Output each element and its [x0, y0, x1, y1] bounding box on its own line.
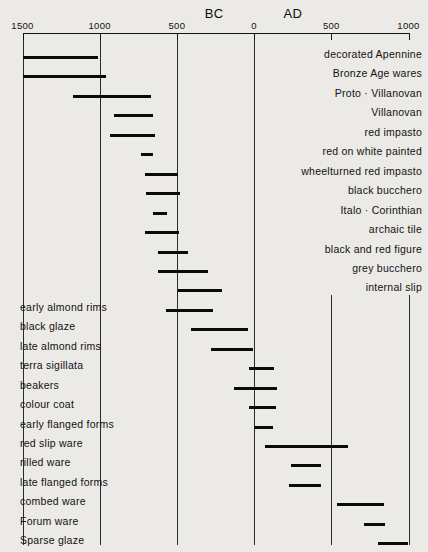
range-bar	[249, 406, 276, 409]
axis-rule	[23, 33, 409, 34]
range-bar	[265, 445, 348, 448]
range-bar	[178, 289, 222, 292]
grid-line-0	[23, 40, 24, 545]
axis-tick-mark-3	[254, 33, 255, 40]
row-label: late almond rims	[20, 340, 101, 352]
grid-line-2	[177, 40, 178, 545]
axis-tick-mark-2	[177, 33, 178, 40]
row-label: red on white painted	[322, 145, 422, 157]
range-bar	[254, 426, 273, 429]
row-label: Sparse glaze	[20, 534, 84, 546]
grid-line-4	[331, 295, 332, 545]
range-bar	[378, 542, 408, 545]
row-label: red slip ware	[20, 437, 83, 449]
row-label: black glaze	[20, 320, 75, 332]
range-bar	[145, 231, 179, 234]
range-bar	[141, 153, 153, 156]
range-bar	[211, 348, 253, 351]
axis-tick-mark-1	[100, 33, 101, 40]
row-label: decorated Apennine	[324, 48, 422, 60]
axis-tick-mark-4	[331, 33, 332, 40]
range-bar	[364, 523, 386, 526]
row-label: internal slip	[366, 281, 422, 293]
row-label: Proto · Villanovan	[335, 87, 422, 99]
range-bar	[249, 367, 274, 370]
range-bar	[153, 212, 167, 215]
row-label: red impasto	[364, 126, 422, 138]
chronology-chart: BCAD 1500100050005001000 decorated Apenn…	[0, 0, 428, 552]
axis-tick-mark-0	[23, 33, 24, 40]
axis-tick-label-2: 500	[169, 20, 186, 31]
row-label: early almond rims	[20, 301, 107, 313]
row-label: beakers	[20, 379, 59, 391]
axis-tick-mark-5	[409, 33, 410, 40]
axis-tick-label-5: 1000	[397, 20, 419, 31]
axis-tick-label-1: 1000	[89, 20, 111, 31]
range-bar	[158, 270, 208, 273]
range-bar	[114, 114, 153, 117]
row-label: grey bucchero	[352, 262, 422, 274]
grid-line-3	[254, 40, 255, 545]
range-bar	[337, 503, 384, 506]
range-bar	[73, 95, 151, 98]
row-label: early flanged forms	[20, 418, 114, 430]
range-bar	[291, 464, 321, 467]
row-label: Forum ware	[20, 515, 79, 527]
range-bar	[110, 134, 155, 137]
row-label: terra sigillata	[20, 359, 83, 371]
range-bar	[166, 309, 213, 312]
range-bar	[145, 173, 178, 176]
row-label: black bucchero	[348, 184, 422, 196]
range-bar	[23, 56, 99, 59]
row-label: colour coat	[20, 398, 74, 410]
range-bar	[289, 484, 321, 487]
row-label: combed ware	[20, 495, 86, 507]
axis-tick-label-3: 0	[251, 20, 257, 31]
row-label: archaic tile	[369, 223, 422, 235]
era-label-ad: AD	[283, 6, 302, 21]
row-label: wheelturned red impasto	[301, 165, 422, 177]
range-bar	[158, 251, 189, 254]
range-bar	[146, 192, 180, 195]
range-bar	[234, 387, 277, 390]
row-label: Italo · Corinthian	[340, 204, 422, 216]
axis-tick-label-0: 1500	[11, 20, 33, 31]
row-label: Villanovan	[371, 106, 422, 118]
row-label: black and red figure	[325, 243, 422, 255]
axis-tick-label-4: 500	[323, 20, 340, 31]
grid-line-5	[409, 295, 410, 545]
range-bar	[191, 328, 248, 331]
row-label: Bronze Age wares	[333, 67, 422, 79]
era-label-bc: BC	[205, 6, 224, 21]
range-bar	[23, 75, 106, 78]
row-label: rilled ware	[20, 456, 71, 468]
row-label: late flanged forms	[20, 476, 108, 488]
grid-line-1	[100, 40, 101, 545]
